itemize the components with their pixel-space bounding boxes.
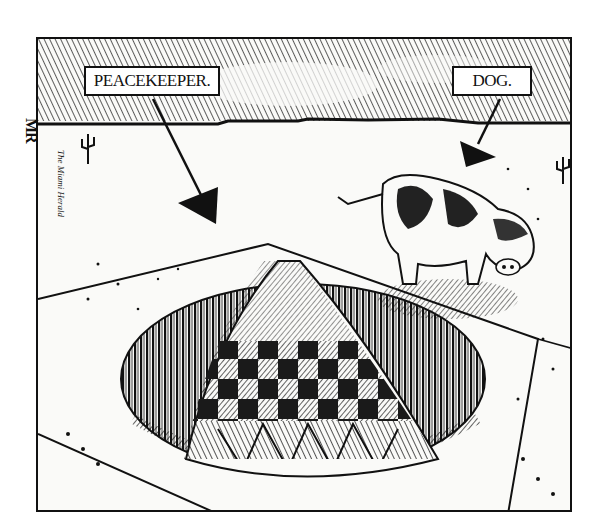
peacekeeper-label: PEACEKEEPER.: [84, 66, 220, 96]
cartoon-frame: [36, 37, 572, 512]
cartoon-scene: [38, 39, 572, 512]
cactus-icon: [82, 134, 569, 184]
publication-credit: The Miami Herald: [56, 150, 66, 217]
dog-label: DOG.: [452, 66, 532, 96]
artist-signature: MR: [22, 118, 40, 143]
